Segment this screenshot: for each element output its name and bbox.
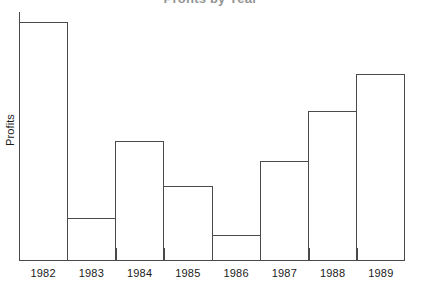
x-tick-1982 [19, 248, 67, 260]
bar-series [19, 12, 405, 260]
x-tick-1988 [309, 248, 357, 260]
chart-title: Profits by Year [0, 0, 421, 6]
bar-1984 [115, 141, 164, 260]
x-axis-labels: 19821983198419851986198719881989 [19, 264, 405, 282]
bar-1989 [356, 74, 405, 260]
y-axis-title-text: Profits [4, 114, 16, 146]
bar-chart-screenshot: Profits by Year Profits 1982198319841985… [0, 0, 421, 297]
bar-1982 [19, 22, 68, 260]
x-axis-line [19, 260, 405, 261]
x-tick-1987 [260, 248, 308, 260]
x-axis-label-1987: 1987 [260, 264, 308, 282]
bar-1987 [260, 161, 309, 260]
x-tick-1986 [212, 248, 260, 260]
x-axis-label-1983: 1983 [67, 264, 115, 282]
x-axis-label-1989: 1989 [357, 264, 405, 282]
x-axis-label-1988: 1988 [309, 264, 357, 282]
plot-area [19, 12, 405, 260]
x-axis-label-1984: 1984 [116, 264, 164, 282]
bar-1988 [308, 111, 357, 260]
x-tick-1989 [357, 248, 405, 260]
x-axis-ticks [19, 248, 405, 260]
x-tick-1985 [164, 248, 212, 260]
x-tick-1983 [67, 248, 115, 260]
x-axis-label-1986: 1986 [212, 264, 260, 282]
x-tick-1984 [116, 248, 164, 260]
x-axis-label-1985: 1985 [164, 264, 212, 282]
y-axis-title: Profits [0, 0, 19, 260]
x-axis-label-1982: 1982 [19, 264, 67, 282]
